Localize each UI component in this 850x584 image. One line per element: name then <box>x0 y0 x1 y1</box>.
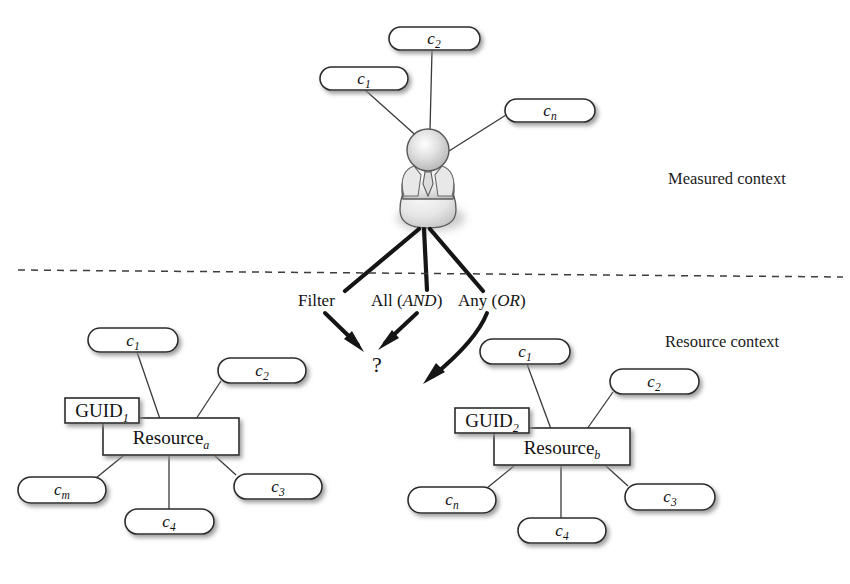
fan-line-all <box>424 229 427 290</box>
context-diagram: Measured context Resource context Filter… <box>0 0 850 584</box>
avatar-right-arm <box>435 166 454 196</box>
edge-b-c2 <box>587 392 613 429</box>
edge-m-cn <box>449 115 506 151</box>
fan-line-any <box>430 229 483 291</box>
node-m-c2[interactable]: c2 <box>389 27 480 50</box>
resource-a-entity[interactable]: Resourcea GUID1 <box>65 398 239 455</box>
svg-text:All (AND): All (AND) <box>371 291 442 310</box>
resource-context-label: Resource context <box>665 332 779 351</box>
node-a-c3[interactable]: c3 <box>234 474 322 499</box>
edge-a-c2 <box>196 381 221 419</box>
node-b-c3[interactable]: c3 <box>625 484 715 510</box>
node-m-cn[interactable]: cn <box>505 99 595 122</box>
avatar-head <box>407 129 449 171</box>
edge-b-c3 <box>606 466 628 486</box>
any-suffix: ) <box>520 291 526 310</box>
any-prefix: Any ( <box>458 291 498 310</box>
edge-a-cm <box>96 456 123 478</box>
svg-text:Any (OR): Any (OR) <box>458 291 526 310</box>
edge-m-c1 <box>364 89 421 140</box>
measured-context-nodes: c1 c2 cn <box>320 27 595 122</box>
unknown-question-mark: ? <box>372 352 382 377</box>
node-a-c2[interactable]: c2 <box>218 358 306 383</box>
diagram-canvas: Measured context Resource context Filter… <box>0 0 850 584</box>
person-avatar-icon <box>397 129 465 231</box>
edge-m-c2 <box>430 51 432 130</box>
fan-line-filter <box>345 229 419 291</box>
edge-b-cm <box>487 466 514 488</box>
node-b-c4[interactable]: c4 <box>518 518 606 543</box>
all-prefix: All ( <box>371 291 403 310</box>
arrow-any-to-resource-b <box>433 313 487 376</box>
all-suffix: ) <box>437 291 443 310</box>
node-b-c1[interactable]: c1 <box>480 339 570 364</box>
node-a-cm[interactable]: cm <box>18 477 106 503</box>
resource-b-entity[interactable]: Resourceb GUID2 <box>455 408 630 465</box>
node-b-cn[interactable]: cn <box>408 487 496 513</box>
avatar-left-arm <box>402 166 421 196</box>
filter-label: Filter <box>298 291 335 310</box>
decision-arrows <box>325 313 487 384</box>
node-a-c1[interactable]: c1 <box>88 328 178 352</box>
edge-b-c1 <box>527 364 551 429</box>
any-or-label: Any (OR) <box>458 291 526 310</box>
measured-context-label: Measured context <box>668 169 786 188</box>
node-b-c2[interactable]: c2 <box>610 369 699 394</box>
all-and-label: All (AND) <box>371 291 442 310</box>
node-m-c1[interactable]: c1 <box>320 67 408 90</box>
edge-a-c1 <box>137 352 160 419</box>
node-a-c4[interactable]: c4 <box>125 509 214 534</box>
all-italic: AND <box>402 291 438 310</box>
any-italic: OR <box>497 291 520 310</box>
operator-fan-lines <box>345 229 483 291</box>
edge-a-c3 <box>214 455 236 475</box>
context-divider <box>18 270 843 277</box>
